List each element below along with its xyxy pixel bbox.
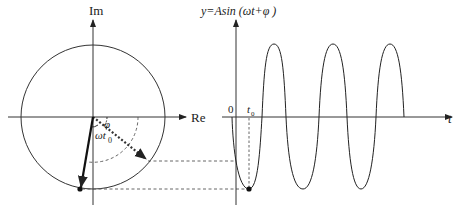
equation-label: y=Asin (ωt+φ ) bbox=[200, 4, 276, 18]
t0-subscript: 0 bbox=[251, 110, 255, 118]
waveform-panel: y=Asin (ωt+φ ) t 0 t 0 bbox=[200, 4, 452, 205]
origin-label: 0 bbox=[228, 103, 234, 115]
phasor-tip-dot bbox=[77, 186, 82, 191]
rotated-phasor bbox=[81, 117, 93, 187]
phasor-panel: Im Re φ ωt 0 bbox=[8, 3, 248, 205]
rotation-angle-subscript: 0 bbox=[108, 136, 112, 145]
time-axis-label: t bbox=[448, 111, 452, 126]
imag-axis-label: Im bbox=[89, 3, 103, 18]
real-axis-label: Re bbox=[191, 110, 206, 125]
phasor-diagram: Im Re φ ωt 0 y=Asin (ωt+φ ) t 0 t 0 bbox=[0, 0, 456, 212]
t0-point-dot bbox=[246, 186, 251, 191]
rotation-angle-label: ωt bbox=[95, 129, 107, 141]
